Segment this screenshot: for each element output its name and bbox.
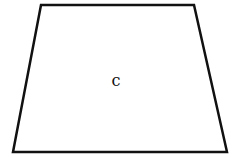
shape-label: c <box>112 71 121 90</box>
trapezoid-diagram: c <box>0 0 232 158</box>
